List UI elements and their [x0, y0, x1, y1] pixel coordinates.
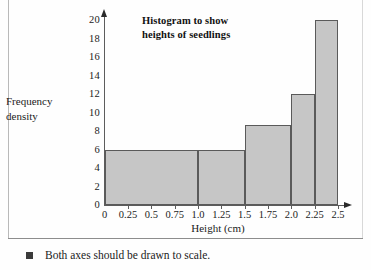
histogram-bar	[291, 94, 314, 205]
y-axis-tick-label: 14	[4, 71, 100, 81]
x-axis-tick-label: 2.5	[331, 209, 344, 220]
figure-page: 02468101214161820 00.250.50.751.01.251.5…	[0, 0, 371, 270]
histogram-bar	[245, 125, 292, 205]
y-axis-tick-label: 20	[4, 15, 100, 25]
y-axis-title: Frequency density	[6, 94, 90, 123]
caption-text: Both axes should be drawn to scale.	[45, 249, 210, 261]
caption-row: Both axes should be drawn to scale.	[8, 244, 363, 266]
x-axis-tick-mark	[198, 205, 199, 209]
x-axis-tick-mark	[291, 205, 292, 209]
y-axis-tick-label: 2	[4, 182, 100, 192]
y-axis-tick-label: 4	[4, 163, 100, 173]
y-axis-tick-label: 16	[4, 52, 100, 62]
histogram-bar	[315, 20, 338, 205]
y-axis-tick-label: 18	[4, 34, 100, 44]
y-axis-title-line-1: Frequency	[6, 94, 90, 109]
x-axis-tick-mark	[175, 205, 176, 209]
x-axis-tick-label: 1.0	[191, 209, 204, 220]
x-axis-tick-mark	[221, 205, 222, 209]
x-axis-tick-label: 1.25	[212, 209, 230, 220]
y-axis-title-line-2: density	[6, 109, 90, 124]
histogram-bar	[198, 150, 245, 206]
y-axis-tick-label: 6	[4, 145, 100, 155]
histogram-bar	[105, 150, 198, 206]
square-bullet-icon	[26, 252, 33, 259]
x-axis-tick-label: 2.0	[285, 209, 298, 220]
x-axis-tick-mark	[128, 205, 129, 209]
x-axis-title: Height (cm)	[148, 222, 288, 234]
histogram-figure: 02468101214161820 00.250.50.751.01.251.5…	[0, 0, 371, 232]
chart-title-line-2: heights of seedlings	[142, 28, 302, 42]
x-axis-tick-label: 1.5	[238, 209, 251, 220]
chart-title: Histogram to show heights of seedlings	[142, 14, 302, 42]
x-axis-tick-label: 0	[102, 209, 107, 220]
x-axis-tick-mark	[338, 205, 339, 209]
page-frame-bottom-rule	[8, 238, 363, 239]
x-axis-tick-label: 2.25	[305, 209, 323, 220]
x-axis-tick-label: 0.5	[145, 209, 158, 220]
x-axis-tick-mark	[245, 205, 246, 209]
x-axis-tick-label: 0.25	[119, 209, 137, 220]
x-axis-tick-mark	[151, 205, 152, 209]
x-axis-tick-label: 1.75	[259, 209, 277, 220]
chart-title-line-1: Histogram to show	[142, 14, 302, 28]
x-axis-tick-label: 0.75	[166, 209, 184, 220]
y-axis-tick-label: 8	[4, 126, 100, 136]
x-axis-tick-mark	[315, 205, 316, 209]
x-axis-tick-mark	[268, 205, 269, 209]
